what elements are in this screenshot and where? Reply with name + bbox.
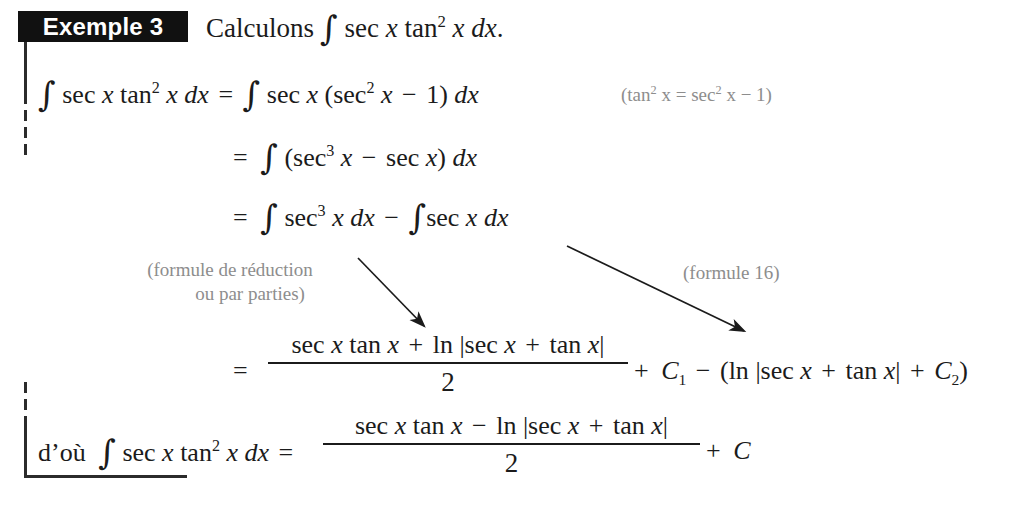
left-rule-bottom [24,416,27,478]
heading-statement: Calculons∫ sec x tan2 x dx. [206,14,504,42]
left-rule-dash-2 [24,127,27,138]
annotation-reduction-formula: (formule de réduction ou par parties) [130,258,330,306]
left-rule-top [24,42,27,104]
integral-sign-icon: ∫ [98,432,116,472]
textbook-example-page: Exemple 3 Calculons∫ sec x tan2 x dx. ∫ … [0,0,1027,512]
left-rule-dash-5 [24,399,27,410]
heading-prompt-text: Calculons [206,13,314,43]
final-line-lhs: d’où ∫ sec x tan2 x dx = [38,438,303,466]
arrow-formula-16-line [567,246,744,331]
note-tail: x − 1) [722,84,772,105]
arrow-reduction-formula-line [358,258,424,326]
integral-sign-icon: ∫ [260,197,278,237]
fraction-numerator: sec x tan x − ln |sec x + tan x| [323,411,700,443]
fraction-denominator: 2 [268,364,628,398]
step-line-3: = ∫ sec3 x dx − ∫sec x dx [233,203,508,231]
left-rule-dash-1 [24,110,27,121]
fraction-final-result: sec x tan x − ln |sec x + tan x| 2 [323,411,700,479]
annotation-formula-16: (formule 16) [683,261,780,285]
fraction-sec-tan-plus-ln: sec x tan x + ln |sec x + tan x| 2 [268,330,628,398]
step-line-4-tail: + C1 − (ln |sec x + tan x| + C2) [634,358,968,388]
step-line-1: ∫ sec x tan2 x dx = ∫ sec x (sec2 x − 1)… [38,80,479,108]
note-tan-identity: (tan2 x = sec2 x − 1) [621,83,772,107]
bottom-rule [24,475,187,478]
left-rule-dash-3 [24,144,27,155]
final-constant-C: C [733,436,750,465]
fraction-denominator: 2 [323,445,700,479]
note-var: x = sec [657,84,716,105]
integral-sign-icon: ∫ [38,74,56,114]
annotation-reduction-line-1: (formule de réduction [130,258,330,282]
integral-sign-icon: ∫ [243,74,261,114]
integral-sign-icon: ∫ [408,197,426,237]
fraction-numerator: sec x tan x + ln |sec x + tan x| [268,330,628,362]
step-line-4-equals: = [233,358,248,384]
example-label-tag: Exemple 3 [18,11,188,42]
note-open: (tan [621,84,651,105]
final-line-tail: + C [706,438,751,464]
integral-sign-icon: ∫ [320,8,338,48]
final-line-prefix: d’où [38,438,86,467]
left-rule-dash-4 [24,382,27,393]
step-line-2: = ∫ (sec3 x − sec x) dx [233,143,477,171]
final-plus-sign: + [706,436,721,465]
integral-sign-icon: ∫ [260,137,278,177]
annotation-reduction-line-2: ou par parties) [130,282,330,306]
